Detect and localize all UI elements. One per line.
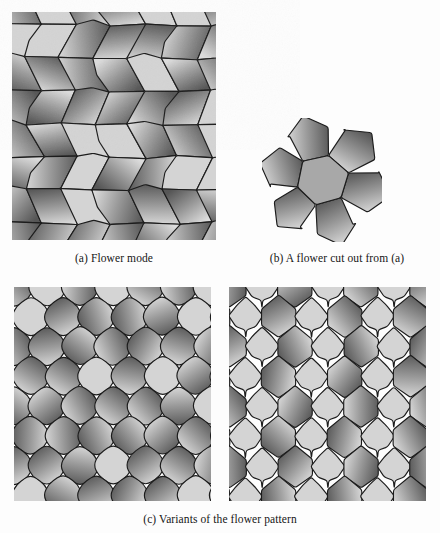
- single-flower-graphic: [262, 118, 382, 242]
- caption-panel-b: (b) A flower cut out from (a): [238, 251, 436, 265]
- caption-panel-c: (c) Variants of the flower pattern: [0, 512, 440, 526]
- tile-cell: [316, 198, 356, 242]
- panel-single-flower: [262, 118, 382, 242]
- variant-pointed-tiling-graphic: [229, 287, 426, 501]
- caption-panel-a: (a) Flower mode: [0, 251, 228, 265]
- figure-root: (a) Flower mode (b) A flower cut out fro…: [0, 0, 440, 533]
- variant-rounded-tiling-graphic: [14, 287, 211, 501]
- panel-variant-rounded: [14, 287, 211, 501]
- panel-flower-mode: [12, 12, 216, 240]
- flower-mode-tiling-graphic: [12, 12, 216, 240]
- tile-cell: [288, 118, 328, 161]
- tile-cell: [262, 148, 302, 187]
- panel-variant-pointed: [229, 287, 426, 501]
